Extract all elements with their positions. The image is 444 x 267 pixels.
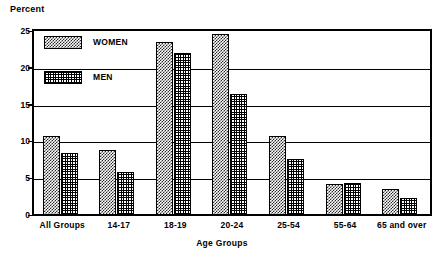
bar-women (156, 42, 173, 215)
x-axis-title: Age Groups (0, 238, 444, 248)
bar-chart: Percent 0510152025 WOMEN MEN All Groups1… (0, 0, 444, 267)
bar-women (269, 136, 286, 215)
x-tick-label: 55-64 (317, 220, 374, 230)
bar-women (326, 184, 343, 215)
y-tick-label: 20 (4, 63, 30, 72)
bar-men (400, 198, 417, 215)
legend-label-men: MEN (93, 72, 113, 82)
bar-group (260, 31, 317, 215)
bar-men (344, 183, 361, 215)
bar-men (174, 53, 191, 215)
bar-men (287, 159, 304, 215)
bar-men (117, 172, 134, 215)
bar-group (204, 31, 261, 215)
y-tick-label: 0 (4, 211, 30, 220)
bar-group (373, 31, 430, 215)
bar-women (212, 34, 229, 215)
bar-women (99, 150, 116, 216)
bar-women (382, 189, 399, 215)
y-tick-label: 15 (4, 100, 30, 109)
y-axis-title: Percent (10, 4, 44, 14)
y-tick-label: 25 (4, 27, 30, 36)
bar-women (43, 136, 60, 215)
legend-swatch-women-icon (44, 36, 82, 49)
legend-swatch-men-icon (44, 71, 82, 84)
x-tick-label: 14-17 (91, 220, 148, 230)
bar-men (230, 94, 247, 215)
bar-group (317, 31, 374, 215)
x-tick-label: All Groups (34, 220, 91, 230)
chart-legend: WOMEN MEN (44, 35, 128, 105)
y-tick-label: 10 (4, 137, 30, 146)
x-tick-label: 20-24 (204, 220, 261, 230)
bar-men (61, 153, 78, 215)
y-tick-label: 5 (4, 174, 30, 183)
x-tick-label: 25-54 (260, 220, 317, 230)
y-axis-ticks: 0510152025 (0, 29, 30, 216)
legend-item-women: WOMEN (44, 35, 128, 49)
x-tick-label: 65 and over (373, 220, 430, 230)
legend-label-women: WOMEN (93, 37, 128, 47)
x-tick-label: 18-19 (147, 220, 204, 230)
bar-group (147, 31, 204, 215)
legend-item-men: MEN (44, 70, 128, 84)
x-axis-ticks: All Groups14-1718-1920-2425-5455-6465 an… (34, 220, 430, 234)
